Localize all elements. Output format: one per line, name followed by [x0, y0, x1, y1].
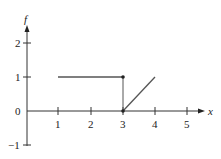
- y-tick-label-neg1: −1: [8, 139, 20, 151]
- x-axis-label: x: [207, 105, 213, 117]
- function-plot: f x 2 1 0 −1 1 2 3 4 5: [0, 0, 221, 159]
- x-axis-arrow-icon: [198, 109, 205, 114]
- x-tick-label-2: 2: [88, 118, 94, 130]
- point-3-0: [121, 109, 125, 113]
- segment-ramp: [123, 77, 155, 111]
- y-tick-label-1: 1: [15, 71, 21, 83]
- y-tick-label-0: 0: [15, 105, 21, 117]
- point-3-1: [121, 75, 125, 79]
- x-tick-label-4: 4: [152, 118, 158, 130]
- x-tick-label-1: 1: [55, 118, 61, 130]
- y-tick-label-2: 2: [15, 37, 21, 49]
- x-tick-label-3: 3: [120, 118, 126, 130]
- x-tick-label-5: 5: [184, 118, 190, 130]
- y-axis-arrow-icon: [25, 25, 30, 32]
- y-axis-label: f: [24, 13, 29, 25]
